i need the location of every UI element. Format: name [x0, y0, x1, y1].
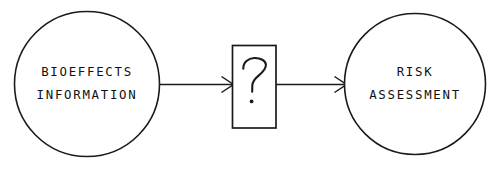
risk-label-line-1: RISK	[397, 64, 434, 79]
connector-unknown-to-risk	[276, 77, 347, 93]
diagram-canvas: BIOEFFECTS INFORMATION RISK ASSESSMENT	[0, 0, 501, 170]
node-risk-assessment[interactable]: RISK ASSESSMENT	[345, 14, 486, 155]
question-mark-dot-icon	[250, 100, 254, 104]
risk-circle-shape	[345, 14, 486, 155]
bioeffects-circle-shape	[15, 12, 160, 157]
node-bioeffects-information[interactable]: BIOEFFECTS INFORMATION	[15, 12, 160, 157]
node-unknown-question-box[interactable]	[233, 46, 277, 129]
bioeffects-label-line-2: INFORMATION	[37, 87, 138, 102]
flow-diagram: BIOEFFECTS INFORMATION RISK ASSESSMENT	[0, 0, 501, 170]
connector-bioeffects-to-unknown	[160, 77, 234, 93]
bioeffects-label-line-1: BIOEFFECTS	[41, 64, 133, 79]
risk-label-line-2: ASSESSMENT	[369, 87, 461, 102]
